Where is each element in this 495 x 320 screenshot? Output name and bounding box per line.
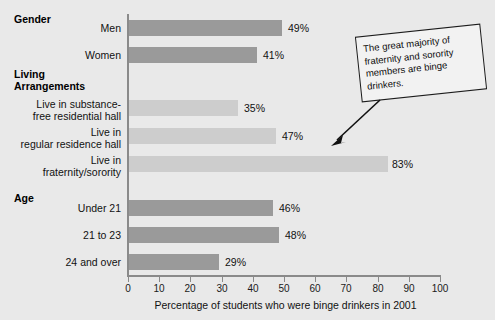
binge-drinking-bar-chart: 0 10 20 30 40 50 60 70 80 90 100 Percent… — [0, 0, 495, 320]
x-tick-50 — [284, 277, 285, 282]
x-axis-title: Percentage of students who were binge dr… — [128, 299, 443, 311]
bar-21-to-23 — [129, 227, 279, 243]
bar-value-fraternity-sorority: 83% — [392, 158, 413, 170]
bar-value-men: 49% — [288, 22, 309, 34]
bar-substance-free-hall — [129, 100, 238, 116]
bar-women — [129, 47, 257, 63]
bar-24-and-over — [129, 254, 219, 270]
group-heading-living-line2: Arrangements — [14, 80, 85, 92]
bar-value-under-21: 46% — [279, 202, 300, 214]
x-tick-label-70: 70 — [331, 283, 361, 295]
category-label-regular-line2: regular residence hall — [0, 138, 121, 150]
x-tick-10 — [159, 277, 160, 282]
x-tick-70 — [346, 277, 347, 282]
category-label-substance-line2: free residential hall — [0, 110, 121, 122]
bar-value-regular-residence-hall: 47% — [282, 130, 303, 142]
x-tick-90 — [409, 277, 410, 282]
callout-arrow-icon — [325, 98, 385, 150]
x-tick-label-100: 100 — [425, 283, 455, 295]
x-tick-100 — [440, 277, 441, 282]
x-tick-label-90: 90 — [394, 283, 424, 295]
x-tick-label-10: 10 — [144, 283, 174, 295]
callout-box: The great majority of fraternity and sor… — [355, 24, 487, 103]
category-label-women: Women — [0, 49, 121, 61]
x-tick-label-30: 30 — [207, 283, 237, 295]
bar-value-21-to-23: 48% — [285, 229, 306, 241]
x-tick-label-0: 0 — [113, 283, 143, 295]
x-tick-label-80: 80 — [363, 283, 393, 295]
callout-text: The great majority of fraternity and sor… — [363, 31, 480, 92]
bar-fraternity-sorority — [129, 156, 388, 172]
x-tick-20 — [190, 277, 191, 282]
x-tick-label-50: 50 — [269, 283, 299, 295]
category-label-greek-line1: Live in — [0, 154, 121, 166]
category-label-24-and-over: 24 and over — [0, 256, 121, 268]
x-tick-60 — [315, 277, 316, 282]
x-tick-0 — [128, 277, 129, 282]
bar-value-24-and-over: 29% — [225, 256, 246, 268]
category-label-substance-line1: Live in substance- — [0, 98, 121, 110]
category-label-regular-line1: Live in — [0, 126, 121, 138]
bar-men — [129, 20, 282, 36]
bar-value-women: 41% — [263, 49, 284, 61]
category-label-under-21: Under 21 — [0, 202, 121, 214]
bar-value-substance-free-hall: 35% — [244, 102, 265, 114]
x-tick-80 — [378, 277, 379, 282]
x-tick-30 — [222, 277, 223, 282]
x-tick-40 — [253, 277, 254, 282]
category-label-21-to-23: 21 to 23 — [0, 229, 121, 241]
x-tick-label-60: 60 — [300, 283, 330, 295]
bar-regular-residence-hall — [129, 128, 276, 144]
x-tick-label-20: 20 — [175, 283, 205, 295]
group-heading-living-line1: Living — [14, 68, 45, 80]
x-tick-label-40: 40 — [238, 283, 268, 295]
category-label-greek-line2: fraternity/sorority — [0, 166, 121, 178]
category-label-men: Men — [0, 22, 121, 34]
bar-under-21 — [129, 200, 273, 216]
